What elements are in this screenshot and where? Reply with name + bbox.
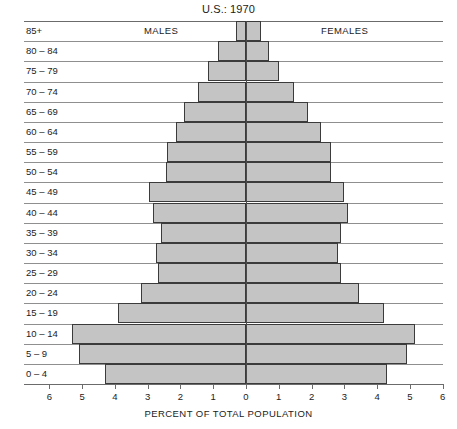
- category-label: 10 – 14: [26, 324, 58, 344]
- x-axis-tick: [443, 384, 444, 389]
- category-label: 85+: [26, 21, 42, 41]
- bar-female-60–64: [246, 122, 321, 142]
- x-axis-tick-label: 2: [166, 391, 194, 402]
- bar-female-50–54: [246, 162, 331, 182]
- bar-female-20–24: [246, 283, 359, 303]
- category-label: 75 – 79: [26, 61, 58, 81]
- category-label: 15 – 19: [26, 303, 58, 323]
- bar-male-15–19: [118, 303, 246, 323]
- bar-male-10–14: [72, 324, 246, 344]
- x-axis-tick: [344, 384, 345, 389]
- series-label-females: FEMALES: [321, 25, 368, 36]
- category-label: 70 – 74: [26, 82, 58, 102]
- x-axis-tick-label: 1: [265, 391, 293, 402]
- x-axis-tick-label: 6: [35, 391, 63, 402]
- x-axis-tick: [312, 384, 313, 389]
- bar-male-35–39: [161, 223, 246, 243]
- x-axis-tick-label: 5: [396, 391, 424, 402]
- x-axis-tick: [377, 384, 378, 389]
- bar-female-15–19: [246, 303, 384, 323]
- bar-female-45–49: [246, 182, 344, 202]
- x-axis-tick: [279, 384, 280, 389]
- bar-male-45–49: [149, 182, 246, 202]
- x-axis-tick: [148, 384, 149, 389]
- bar-female-0–4: [246, 364, 387, 384]
- x-axis-tick-label: 4: [101, 391, 129, 402]
- x-axis-tick-label: 1: [199, 391, 227, 402]
- bar-male-0–4: [105, 364, 246, 384]
- x-axis-tick: [49, 384, 50, 389]
- bar-male-5–9: [79, 344, 246, 364]
- x-axis-tick: [410, 384, 411, 389]
- row-gridline: [24, 21, 443, 22]
- category-label: 45 – 49: [26, 182, 58, 202]
- category-label: 5 – 9: [26, 344, 47, 364]
- bar-female-5–9: [246, 344, 407, 364]
- category-label: 55 – 59: [26, 142, 58, 162]
- x-axis-tick: [115, 384, 116, 389]
- category-label: 25 – 29: [26, 263, 58, 283]
- x-axis-line: [24, 384, 443, 385]
- bar-female-65–69: [246, 102, 308, 122]
- bar-male-55–59: [167, 142, 246, 162]
- x-axis-tick-label: 3: [134, 391, 162, 402]
- bar-female-70–74: [246, 82, 294, 102]
- bar-male-80–84: [218, 41, 246, 61]
- bar-female-35–39: [246, 223, 341, 243]
- bar-female-85+: [246, 21, 261, 41]
- category-label: 50 – 54: [26, 162, 58, 182]
- bar-male-75–79: [208, 61, 246, 81]
- bar-male-40–44: [153, 203, 246, 223]
- x-axis-tick-label: 4: [363, 391, 391, 402]
- bar-male-70–74: [198, 82, 246, 102]
- bar-male-60–64: [176, 122, 246, 142]
- x-axis-tick: [82, 384, 83, 389]
- bar-female-55–59: [246, 142, 331, 162]
- category-label: 20 – 24: [26, 283, 58, 303]
- bar-male-50–54: [166, 162, 246, 182]
- bar-male-65–69: [184, 102, 246, 122]
- bar-female-80–84: [246, 41, 269, 61]
- bar-female-75–79: [246, 61, 279, 81]
- bar-male-20–24: [141, 283, 246, 303]
- series-label-males: MALES: [144, 25, 178, 36]
- category-label: 60 – 64: [26, 122, 58, 142]
- plot-area: 85+80 – 8475 – 7970 – 7465 – 6960 – 6455…: [24, 21, 443, 384]
- bar-female-25–29: [246, 263, 341, 283]
- x-axis-tick-label: 3: [330, 391, 358, 402]
- x-axis-tick-label: 0: [232, 391, 260, 402]
- x-axis-tick: [213, 384, 214, 389]
- category-label: 65 – 69: [26, 102, 58, 122]
- category-label: 80 – 84: [26, 41, 58, 61]
- x-axis-tick-label: 6: [429, 391, 457, 402]
- bar-female-40–44: [246, 203, 348, 223]
- category-label: 40 – 44: [26, 203, 58, 223]
- bar-male-25–29: [158, 263, 246, 283]
- chart-title: U.S.: 1970: [0, 3, 457, 15]
- x-axis-title: PERCENT OF TOTAL POPULATION: [0, 408, 457, 419]
- x-axis-tick: [246, 384, 247, 389]
- bar-female-10–14: [246, 324, 415, 344]
- bar-male-30–34: [156, 243, 246, 263]
- x-axis-tick-label: 2: [298, 391, 326, 402]
- category-label: 30 – 34: [26, 243, 58, 263]
- center-axis-line: [246, 21, 247, 384]
- category-label: 35 – 39: [26, 223, 58, 243]
- population-pyramid-figure: U.S.: 1970 85+80 – 8475 – 7970 – 7465 – …: [0, 0, 457, 429]
- bar-female-30–34: [246, 243, 338, 263]
- bar-male-85+: [236, 21, 246, 41]
- x-axis-tick: [180, 384, 181, 389]
- x-axis-tick-label: 5: [68, 391, 96, 402]
- category-label: 0 – 4: [26, 364, 47, 384]
